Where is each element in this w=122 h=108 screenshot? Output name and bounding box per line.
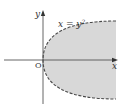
origin-label: O bbox=[35, 62, 42, 70]
curve-label-exponent: 2 bbox=[81, 18, 85, 25]
y-axis-arrow-icon bbox=[41, 10, 45, 16]
curve-label-base: x = y bbox=[58, 19, 81, 29]
region-diagram bbox=[0, 0, 122, 108]
curve-label: x = y2 bbox=[58, 20, 85, 29]
y-axis-label: y bbox=[35, 10, 40, 19]
x-axis-label: x bbox=[112, 62, 117, 71]
